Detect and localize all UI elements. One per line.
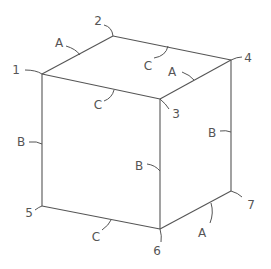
edge-1-2 <box>42 36 113 74</box>
leader-edge-6-7-A <box>210 203 212 223</box>
leader-vertex-5 <box>35 206 42 210</box>
leader-edge-3-6-B <box>147 164 160 171</box>
edge-label-C-bottom: C <box>92 231 100 243</box>
cube-diagram: 1 2 3 4 5 6 7 A A A B B B C C C <box>0 0 271 269</box>
vertex-label-5: 5 <box>25 207 33 219</box>
leader-edge-1-5-B <box>29 142 42 144</box>
edge-label-B-right: B <box>208 127 216 139</box>
edge-label-C-back-top: C <box>144 60 152 72</box>
edge-label-C-front-top: C <box>94 99 102 111</box>
vertex-label-1: 1 <box>12 64 20 76</box>
leader-vertex-6 <box>160 229 161 242</box>
edge-2-4 <box>113 36 231 60</box>
edge-label-A-top-right: A <box>168 66 176 78</box>
leader-vertex-3 <box>160 99 169 109</box>
edge-6-7 <box>160 191 231 229</box>
edge-label-A-top-left: A <box>55 37 63 49</box>
edge-5-6 <box>42 206 160 229</box>
leader-edge-1-2-A <box>66 46 80 55</box>
vertex-label-2: 2 <box>94 15 102 27</box>
leader-edge-2-4-C <box>154 46 168 58</box>
leader-edge-3-4-A <box>182 72 194 80</box>
leader-vertex-1 <box>25 70 42 74</box>
edge-label-A-bottom: A <box>198 227 206 239</box>
edge-1-3 <box>42 74 160 99</box>
cube-drawing <box>0 0 271 269</box>
vertex-label-7: 7 <box>247 199 255 211</box>
leader-vertex-4 <box>231 57 242 60</box>
vertex-label-3: 3 <box>172 108 180 120</box>
vertex-label-4: 4 <box>244 52 252 64</box>
leader-edge-5-6-C <box>102 220 111 230</box>
edge-label-B-middle: B <box>135 160 143 172</box>
leader-vertex-7 <box>231 191 242 197</box>
edge-label-B-left: B <box>17 136 25 148</box>
leader-edge-4-7-B <box>220 131 231 132</box>
vertex-label-6: 6 <box>153 245 161 257</box>
leader-edge-1-3-C <box>104 90 114 101</box>
leader-vertex-2 <box>104 25 113 36</box>
